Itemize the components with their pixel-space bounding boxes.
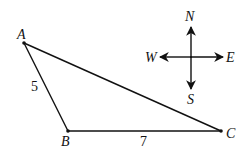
vertex-b-label: B — [61, 134, 70, 149]
triangle-diagram: A B C 5 7 N S W E — [0, 0, 248, 152]
vertex-b-dot — [66, 129, 70, 133]
compass-west-label: W — [145, 50, 158, 65]
vertex-c-label: C — [226, 126, 236, 141]
side-ab-length: 5 — [31, 79, 38, 94]
compass-north-label: N — [184, 9, 195, 24]
compass-east-label: E — [225, 50, 235, 65]
vertex-a-label: A — [16, 27, 26, 42]
side-bc-length: 7 — [140, 134, 147, 149]
vertex-c-dot — [219, 129, 223, 133]
compass-rose: N S W E — [145, 9, 235, 107]
compass-south-label: S — [187, 92, 194, 107]
